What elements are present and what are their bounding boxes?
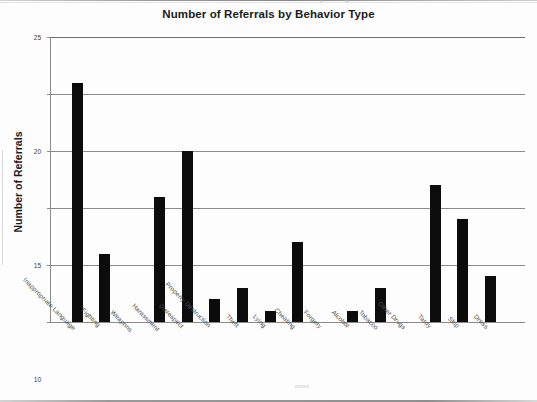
bar-dress [485,276,496,322]
y-axis-title-text: Number of Referrals [12,132,24,233]
gridline-15 [51,151,525,152]
bar-cheating [292,242,303,322]
y-tick-25: 25 [47,37,51,38]
bar-property-destruction [209,299,220,322]
y-tick-0: 0 [47,322,51,323]
bar-skip [457,219,468,322]
y-tick-5: 5 [47,265,51,266]
bar-fighting [99,254,110,322]
chart-screenshot: Number of Referrals by Behavior Type Num… [0,0,537,402]
y-axis-line [50,37,51,322]
y-tick-15: 15 [47,151,51,152]
scan-speck [345,0,349,2]
y-axis-title: Number of Referrals [10,112,26,252]
bar-inappropriate-language [72,83,83,322]
scan-edge-top [0,0,537,1]
scan-edge-top-secondary [0,2,537,3]
chart-title: Number of Referrals by Behavior Type [0,8,537,20]
scan-edge-left [2,150,3,265]
gridline-20 [51,94,525,95]
y-tick-10: 10 [47,208,51,209]
bar-tardy [430,185,441,322]
scan-speck [320,0,323,2]
gridline-25 [51,37,525,38]
plot-area: 0510152025 [51,37,525,322]
y-tick-label-20: 20 [34,148,41,155]
y-tick-label-25: 25 [34,34,41,41]
gridline-10 [51,208,525,209]
bar-theft [237,288,248,322]
y-tick-label-15: 15 [34,262,41,269]
gridline-5 [51,265,525,266]
x-axis-category-labels: Inappropriate LanguageFightingWeaponsHar… [0,324,537,402]
y-tick-20: 20 [47,94,51,95]
